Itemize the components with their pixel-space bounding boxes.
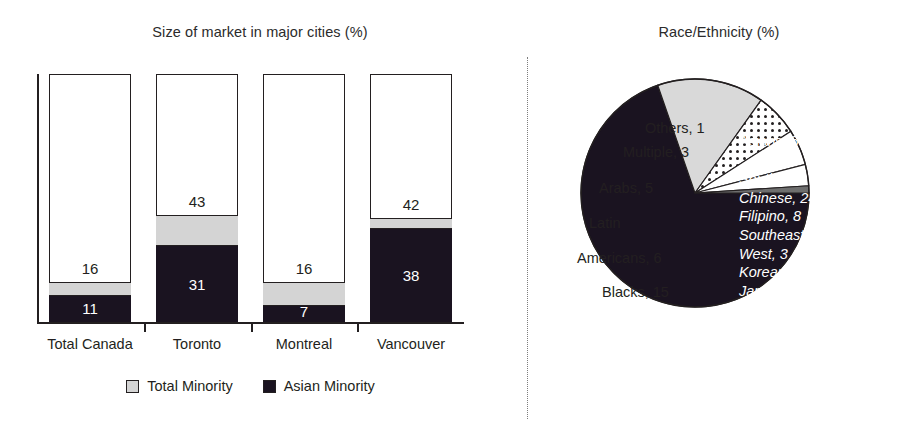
legend-label-total-minority: Total Minority [147,378,232,394]
legend-item-asian-minority: Asian Minority [263,378,375,394]
bar-segment-total-minority [156,215,238,245]
bar-group: 167 [263,74,345,322]
legend-item-total-minority: Total Minority [126,378,232,394]
bar-segment-total-minority [370,218,452,228]
bar-value-label-asian-minority: 31 [156,277,238,292]
bar-axis-tick [251,324,253,332]
bar-segment-total-minority [49,282,131,294]
bar-chart-panel: Size of market in major cities (%) 16114… [0,0,527,434]
bar-value-label-total-minority: 16 [263,261,345,276]
legend-swatch-total-minority-icon [126,380,139,393]
bar-value-label-total-minority: 16 [49,261,131,276]
legend-label-asian-minority: Asian Minority [284,378,375,394]
bar-segment-total-minority [263,282,345,304]
asian-breakdown-annotation: South, 25Chinese, 24Filipino, 8Southeast… [739,172,820,300]
bar-value-label-asian-minority: 38 [370,268,452,283]
bar-axis-tick [357,324,359,332]
asian-breakdown-item: West, 3 [739,247,820,263]
bar-axis-tick [144,324,146,332]
asian-breakdown-item: Korean, 3 [739,265,820,281]
bar-group: 1611 [49,74,131,322]
pie-slice-label-latin-americans-line2: Americans, 6 [577,251,662,267]
pie-slice-label-blacks: Blacks, 15 [602,285,669,301]
bar-group: 4331 [156,74,238,322]
bar-value-label-total-minority: 42 [370,197,452,212]
bar-value-label-total-minority: 43 [156,194,238,209]
bar-chart-legend: Total Minority Asian Minority [37,378,464,394]
asian-breakdown-item: Filipino, 8 [739,209,820,225]
bar-value-label-asian-minority: 7 [263,304,345,319]
bar-category-label: Vancouver [346,336,476,352]
bar-value-label-asian-minority: 11 [49,301,131,316]
asian-breakdown-item: Chinese, 24 [739,191,820,207]
pie-slice-label-latin-americans-line1: Latin [589,216,620,232]
bar-group: 4238 [370,74,452,322]
figure-root: Size of market in major cities (%) 16114… [0,0,898,434]
pie-slice-label-arabs: Arabs, 5 [599,181,653,197]
pie-slice-label-multiple: Multiple, 3 [623,145,689,161]
pie-slice-label-others: Others, 1 [645,121,705,137]
legend-swatch-asian-minority-icon [263,380,276,393]
pie-chart-title: Race/Ethnicity (%) [540,24,898,40]
bar-chart-title: Size of market in major cities (%) [0,24,520,40]
bar-chart-plot-area: 161143311674238 [37,74,464,322]
asian-breakdown-item: Japanese, 2 [739,284,820,300]
asian-breakdown-item: South, 25 [739,172,820,188]
pie-slice-label-asians: Asians, 69 [739,134,807,150]
pie-chart-panel: Race/Ethnicity (%) Others, 1 Multiple, 3… [527,0,898,434]
asian-breakdown-item: Southeast, 5 [739,228,820,244]
